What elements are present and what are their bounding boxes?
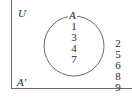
complement-label: A′	[17, 77, 26, 88]
universal-set-label: U	[18, 8, 26, 19]
complement-elements: 2 5 6 8 9	[113, 38, 123, 93]
set-a-elements: 1 3 4 7	[69, 21, 79, 65]
element: 7	[69, 54, 79, 65]
element: 9	[113, 82, 123, 93]
